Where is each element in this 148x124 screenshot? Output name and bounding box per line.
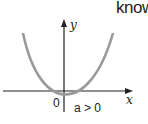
parabola-curve [23, 33, 113, 95]
parabola-diagram: y x 0 a > 0 [0, 0, 148, 124]
x-axis-label: x [126, 93, 133, 107]
origin-label: 0 [53, 96, 60, 110]
condition-label: a > 0 [74, 101, 101, 115]
y-axis-label: y [69, 18, 77, 32]
y-axis-arrow-icon [61, 19, 67, 27]
